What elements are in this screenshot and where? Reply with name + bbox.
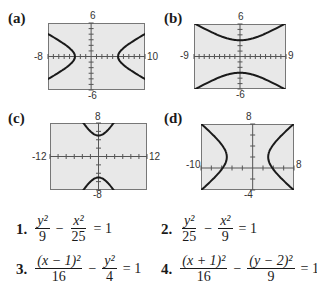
- graph-a-xmin-label: -8: [34, 52, 43, 62]
- numerator: x²: [218, 213, 232, 229]
- denominator: 16: [50, 269, 68, 285]
- operator: −: [204, 221, 212, 237]
- numerator: y²: [182, 213, 196, 229]
- graph-b-ymax-label: 6: [238, 12, 244, 22]
- graph-c-ymax-label: 8: [95, 112, 101, 122]
- hyperbola-plot: [50, 123, 147, 190]
- graph-a-ymin-label: -6: [88, 91, 97, 101]
- graph-d-xmax-label: 8: [296, 160, 302, 170]
- denominator: 25: [70, 229, 88, 245]
- denominator: 25: [180, 229, 198, 245]
- graph-a: [48, 23, 145, 90]
- equation-number: 2.: [161, 221, 172, 238]
- fraction: y²25: [180, 213, 198, 245]
- panel-label-d: (d): [164, 110, 182, 127]
- panel-label-a: (a): [8, 10, 26, 27]
- rhs: = 1: [123, 261, 141, 277]
- equation-number: 4.: [161, 261, 172, 278]
- equation-3: 3. (x − 1)²16 − y²4 = 1: [16, 253, 144, 285]
- graph-b-ymin-label: -6: [236, 90, 245, 100]
- graph-c-xmin-label: -12: [32, 152, 46, 162]
- operator: −: [88, 261, 96, 277]
- denominator: 16: [195, 269, 213, 285]
- fraction: (y − 2)²9: [247, 253, 294, 285]
- graph-b-xmin-label: -9: [180, 51, 189, 61]
- graph-d-ymin-label: -4: [244, 190, 253, 200]
- graph-d: [201, 124, 294, 190]
- rhs: = 1: [301, 261, 317, 277]
- numerator: (x + 1)²: [180, 253, 227, 269]
- hyperbola-plot: [48, 23, 145, 90]
- denominator: 9: [220, 229, 231, 245]
- denominator: 9: [37, 229, 48, 245]
- operator: −: [56, 221, 64, 237]
- panel-label-b: (b): [164, 10, 182, 27]
- fraction: (x + 1)²16: [180, 253, 227, 285]
- equation-1: 1. y²9 − x²25 = 1: [16, 213, 115, 245]
- graph-a-ymax-label: 6: [90, 11, 96, 21]
- numerator: (x − 1)²: [35, 253, 82, 269]
- graph-d-ymax-label: 8: [246, 112, 252, 122]
- operator: −: [233, 261, 241, 277]
- fraction: y²9: [35, 213, 49, 245]
- graph-c-xmax-label: 12: [149, 152, 160, 162]
- numerator: x²: [71, 213, 85, 229]
- hyperbola-plot: [194, 24, 286, 89]
- numerator: y²: [35, 213, 49, 229]
- fraction: y²4: [102, 253, 116, 285]
- graph-b-xmax-label: 9: [288, 51, 294, 61]
- rhs: = 1: [94, 221, 112, 237]
- graph-d-xmin-label: -10: [186, 160, 200, 170]
- fraction: x²9: [218, 213, 232, 245]
- graph-c: [50, 123, 147, 190]
- fraction: x²25: [70, 213, 88, 245]
- panel-label-c: (c): [8, 110, 25, 127]
- numerator: y²: [102, 253, 116, 269]
- fraction: (x − 1)²16: [35, 253, 82, 285]
- numerator: (y − 2)²: [247, 253, 294, 269]
- graph-b: [194, 24, 286, 89]
- denominator: 4: [104, 269, 115, 285]
- equation-number: 1.: [16, 221, 27, 238]
- equation-number: 3.: [16, 261, 27, 278]
- graph-a-xmax-label: 10: [147, 52, 158, 62]
- graph-c-ymin-label: -8: [93, 190, 102, 200]
- equation-2: 2. y²25 − x²9 = 1: [161, 213, 260, 245]
- denominator: 9: [265, 269, 276, 285]
- rhs: = 1: [239, 221, 257, 237]
- equation-4: 4. (x + 1)²16 − (y − 2)²9 = 1: [161, 253, 317, 285]
- hyperbola-plot: [201, 124, 294, 190]
